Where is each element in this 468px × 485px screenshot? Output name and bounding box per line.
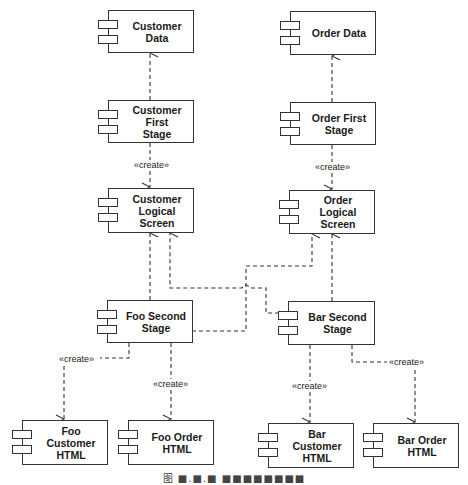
component-port-icon bbox=[98, 213, 118, 222]
component-port-icon bbox=[118, 430, 138, 439]
component-label: Customer First Stage bbox=[123, 101, 191, 142]
component-port-icon bbox=[278, 311, 298, 320]
component-bar-second-stage[interactable]: Bar Second Stage bbox=[288, 301, 375, 345]
component-port-icon bbox=[279, 200, 299, 209]
dep-bss-create-boh-a bbox=[352, 345, 387, 362]
component-port-icon bbox=[258, 448, 278, 457]
component-port-icon bbox=[363, 448, 383, 457]
component-port-icon bbox=[118, 445, 138, 454]
component-port-icon bbox=[98, 35, 118, 44]
component-bar-customer-html[interactable]: Bar Customer HTML bbox=[268, 423, 354, 468]
stereotype-label: «create» bbox=[314, 162, 351, 172]
component-foo-order-html[interactable]: Foo Order HTML bbox=[128, 420, 214, 465]
component-customer-data[interactable]: Customer Data bbox=[108, 10, 194, 53]
component-port-icon bbox=[97, 310, 117, 319]
component-port-icon bbox=[278, 326, 298, 335]
component-port-icon bbox=[98, 20, 118, 29]
component-label: Customer Logical Screen bbox=[123, 189, 191, 232]
component-customer-first-stage[interactable]: Customer First Stage bbox=[108, 100, 194, 143]
stereotype-label: «create» bbox=[152, 379, 189, 389]
component-label: Order Logical Screen bbox=[304, 191, 372, 233]
stereotype-label: «create» bbox=[291, 381, 328, 391]
stereotype-label: «create» bbox=[58, 354, 95, 364]
component-label: Bar Customer HTML bbox=[283, 424, 351, 467]
component-customer-logical-screen[interactable]: Customer Logical Screen bbox=[108, 188, 194, 233]
component-port-icon bbox=[280, 127, 300, 136]
component-port-icon bbox=[97, 325, 117, 334]
component-port-icon bbox=[280, 36, 300, 45]
component-port-icon bbox=[98, 198, 118, 207]
component-label: Foo Customer HTML bbox=[37, 421, 105, 464]
figure-caption: 图 ■.■.■ ■■■■■■■■ bbox=[0, 470, 468, 485]
component-order-data[interactable]: Order Data bbox=[290, 11, 376, 55]
component-label: Order Data bbox=[305, 12, 373, 54]
component-port-icon bbox=[12, 445, 32, 454]
component-foo-customer-html[interactable]: Foo Customer HTML bbox=[22, 420, 108, 465]
component-foo-second-stage[interactable]: Foo Second Stage bbox=[107, 300, 193, 343]
component-order-first-stage[interactable]: Order First Stage bbox=[290, 102, 376, 145]
component-port-icon bbox=[98, 110, 118, 119]
component-bar-order-html[interactable]: Bar Order HTML bbox=[373, 423, 459, 468]
component-label: Foo Order HTML bbox=[143, 421, 211, 464]
component-label: Bar Second Stage bbox=[303, 302, 372, 344]
component-port-icon bbox=[98, 125, 118, 134]
component-label: Customer Data bbox=[123, 11, 191, 52]
dep-fss-create-fch-a bbox=[100, 343, 129, 358]
component-order-logical-screen[interactable]: Order Logical Screen bbox=[289, 190, 375, 234]
component-label: Foo Second Stage bbox=[122, 301, 190, 342]
component-port-icon bbox=[279, 215, 299, 224]
component-port-icon bbox=[363, 433, 383, 442]
stereotype-label: «create» bbox=[133, 160, 170, 170]
component-port-icon bbox=[12, 430, 32, 439]
component-port-icon bbox=[280, 112, 300, 121]
component-label: Order First Stage bbox=[305, 103, 373, 144]
component-port-icon bbox=[280, 21, 300, 30]
component-port-icon bbox=[258, 433, 278, 442]
component-label: Bar Order HTML bbox=[388, 424, 456, 467]
stereotype-label: «create» bbox=[388, 357, 425, 367]
